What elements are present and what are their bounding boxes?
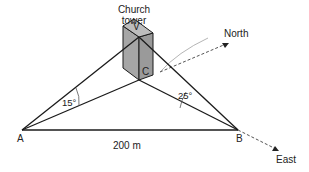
baseline-length-label: 200 m (113, 140, 141, 151)
north-guide-arc (160, 38, 208, 72)
church-label-line1: Church (114, 4, 154, 15)
point-label-b: B (236, 133, 243, 144)
angle-arc-A (76, 88, 79, 106)
diagram-canvas (0, 0, 309, 172)
east-arrowhead (272, 146, 279, 151)
point-label-c: C (142, 66, 149, 77)
north-label: North (224, 28, 248, 39)
east-label: East (276, 154, 296, 165)
angle-label-b: 25° (178, 90, 192, 101)
north-dashed-line (160, 44, 226, 72)
point-label-v: V (133, 21, 140, 32)
north-arrowhead (222, 43, 229, 48)
angle-label-a: 15° (62, 97, 76, 108)
point-label-a: A (17, 133, 24, 144)
east-dashed-line (238, 130, 276, 149)
